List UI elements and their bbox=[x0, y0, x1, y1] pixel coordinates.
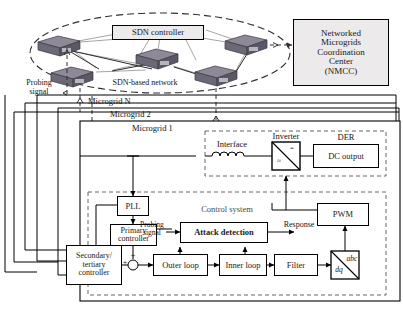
pll-box[interactable]: PLL bbox=[117, 196, 149, 216]
nmcc-box[interactable]: Networked Microgrids Coordination Center… bbox=[293, 19, 389, 86]
attack-detection-label: Attack detection bbox=[194, 228, 254, 237]
abc-dq-transform-symbol bbox=[331, 251, 359, 279]
dc-output-box[interactable]: DC output bbox=[313, 144, 379, 168]
sdn-switch-3 bbox=[136, 49, 178, 69]
figure-canvas: SDN controller SDN-based network Probing… bbox=[0, 0, 403, 323]
primary-controller-label: Primary controller bbox=[111, 227, 156, 244]
sdn-switch-5 bbox=[225, 35, 267, 55]
filter-label: Filter bbox=[287, 261, 305, 270]
pwm-box[interactable]: PWM bbox=[317, 203, 369, 226]
inner-loop-box[interactable]: Inner loop bbox=[219, 254, 267, 276]
secondary-tertiary-controller-label: Secondary/ tertiary controller bbox=[67, 252, 121, 277]
outer-loop-label: Outer loop bbox=[162, 261, 199, 270]
sdn-controller-box[interactable]: SDN controller bbox=[112, 25, 204, 40]
secondary-tertiary-controller-box[interactable]: Secondary/ tertiary controller bbox=[66, 245, 122, 285]
inverter-symbol bbox=[272, 142, 300, 170]
sdn-switch-4 bbox=[195, 66, 237, 86]
dc-output-label: DC output bbox=[328, 152, 364, 161]
nmcc-line-5: (NMCC) bbox=[325, 67, 358, 76]
sdn-switch-1 bbox=[38, 36, 80, 56]
attack-detection-box[interactable]: Attack detection bbox=[180, 222, 268, 243]
primary-controller-box[interactable]: Primary controller bbox=[110, 224, 157, 246]
sdn-switch-2 bbox=[51, 67, 93, 87]
sdn-controller-label: SDN controller bbox=[132, 28, 184, 37]
filter-box[interactable]: Filter bbox=[274, 254, 318, 276]
pwm-label: PWM bbox=[333, 210, 353, 219]
inner-loop-label: Inner loop bbox=[225, 261, 260, 270]
outer-loop-box[interactable]: Outer loop bbox=[153, 254, 208, 276]
pll-label: PLL bbox=[125, 202, 140, 211]
summing-junction bbox=[128, 260, 138, 270]
